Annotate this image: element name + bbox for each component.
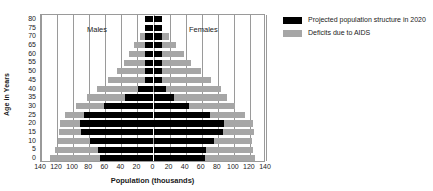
table-row bbox=[41, 24, 264, 33]
bar-projected-female bbox=[154, 103, 189, 109]
plot-area: Males Females bbox=[40, 14, 265, 162]
x-axis-tick-label: 120 bbox=[243, 163, 255, 171]
bar-projected-male bbox=[145, 77, 154, 83]
bar-projected-male bbox=[145, 68, 154, 74]
table-row bbox=[41, 67, 264, 76]
y-axis-tick-label: 55 bbox=[28, 58, 36, 65]
annotation-males: Males bbox=[87, 25, 107, 34]
bar-projected-female bbox=[154, 33, 163, 39]
legend-item: Deficits due to AIDS bbox=[283, 29, 431, 37]
bar-projected-male bbox=[98, 147, 153, 153]
y-axis-tick-label: 60 bbox=[28, 50, 36, 57]
x-axis-tick-label: 140 bbox=[34, 163, 46, 171]
x-axis-tick-label: 100 bbox=[66, 163, 78, 171]
x-axis-tick-label: 0 bbox=[151, 163, 155, 171]
bar-projected-female bbox=[154, 16, 163, 22]
y-axis-tick-label: 0 bbox=[32, 154, 36, 161]
bar-projected-female bbox=[154, 147, 206, 153]
table-row bbox=[41, 59, 264, 68]
population-pyramid-figure: Age in Years 051015202530354045505560657… bbox=[0, 0, 433, 191]
legend-item-label: Deficits due to AIDS bbox=[308, 29, 370, 37]
y-axis-tick-label: 5 bbox=[32, 145, 36, 152]
legend-swatch bbox=[283, 30, 302, 37]
x-axis-tick-label: 100 bbox=[227, 163, 239, 171]
bar-projected-male bbox=[138, 86, 153, 92]
table-row bbox=[41, 154, 264, 163]
y-axis-tick-label: 15 bbox=[28, 128, 36, 135]
bar-projected-female bbox=[154, 94, 175, 100]
table-row bbox=[41, 41, 264, 50]
legend-swatch bbox=[283, 17, 302, 24]
x-axis-tick-labels: 14012010080604020020406080100120140 bbox=[40, 163, 265, 173]
bar-projected-female bbox=[154, 77, 163, 83]
bar-projected-male bbox=[80, 120, 153, 126]
table-row bbox=[41, 102, 264, 111]
bar-projected-male bbox=[145, 25, 154, 31]
bar-projected-female bbox=[154, 25, 163, 31]
legend-item: Projected population structure in 2020 bbox=[283, 16, 431, 24]
bar-projected-male bbox=[145, 33, 154, 39]
bar-projected-female bbox=[154, 155, 205, 161]
x-axis-title: Population (thousands) bbox=[40, 176, 265, 185]
annotation-females: Females bbox=[189, 25, 218, 34]
bar-projected-male bbox=[90, 138, 153, 144]
x-axis-tick-label: 140 bbox=[259, 163, 271, 171]
y-axis-title-label: Age in Years bbox=[4, 72, 11, 115]
x-axis-tick-label: 40 bbox=[116, 163, 124, 171]
y-axis-tick-label: 25 bbox=[28, 111, 36, 118]
y-axis-tick-label: 70 bbox=[28, 32, 36, 39]
table-row bbox=[41, 119, 264, 128]
bar-projected-male bbox=[145, 51, 154, 57]
bar-rows bbox=[41, 15, 264, 161]
bar-projected-female bbox=[154, 129, 224, 135]
bar-projected-male bbox=[145, 42, 154, 48]
bar-projected-male bbox=[125, 94, 154, 100]
y-axis-title: Age in Years bbox=[0, 44, 14, 144]
y-axis-tick-label: 50 bbox=[28, 67, 36, 74]
table-row bbox=[41, 146, 264, 155]
bar-projected-female bbox=[154, 51, 163, 57]
x-axis-tick-label: 60 bbox=[100, 163, 108, 171]
y-axis-tick-label: 45 bbox=[28, 76, 36, 83]
legend: Projected population structure in 2020De… bbox=[283, 16, 431, 42]
bar-projected-male bbox=[84, 112, 153, 118]
y-axis-tick-label: 35 bbox=[28, 93, 36, 100]
bar-projected-male bbox=[104, 103, 153, 109]
y-axis-tick-label: 65 bbox=[28, 41, 36, 48]
y-axis-tick-label: 75 bbox=[28, 24, 36, 31]
bar-projected-male bbox=[145, 60, 154, 66]
table-row bbox=[41, 76, 264, 85]
bar-projected-female bbox=[154, 60, 163, 66]
table-row bbox=[41, 15, 264, 24]
y-axis-tick-label: 20 bbox=[28, 119, 36, 126]
gridline bbox=[266, 15, 267, 161]
x-axis-tick-label: 60 bbox=[197, 163, 205, 171]
bar-projected-male bbox=[81, 129, 153, 135]
x-axis-tick-label: 20 bbox=[165, 163, 173, 171]
y-axis-tick-label: 80 bbox=[28, 15, 36, 22]
bar-projected-female bbox=[154, 42, 163, 48]
bar-projected-female bbox=[154, 86, 166, 92]
y-axis-tick-labels: 05101520253035404550556065707580 bbox=[14, 14, 38, 162]
table-row bbox=[41, 93, 264, 102]
x-axis-tick-label: 20 bbox=[133, 163, 141, 171]
plot-frame: Males Females bbox=[40, 14, 265, 162]
y-axis-tick-label: 10 bbox=[28, 137, 36, 144]
bar-projected-female bbox=[154, 68, 163, 74]
figure-divider bbox=[276, 0, 277, 191]
x-axis-tick-label: 40 bbox=[181, 163, 189, 171]
table-row bbox=[41, 85, 264, 94]
legend-item-label: Projected population structure in 2020 bbox=[308, 16, 426, 24]
y-axis-tick-label: 30 bbox=[28, 102, 36, 109]
bar-projected-male bbox=[100, 155, 153, 161]
table-row bbox=[41, 128, 264, 137]
bar-projected-male bbox=[145, 16, 154, 22]
table-row bbox=[41, 111, 264, 120]
table-row bbox=[41, 32, 264, 41]
x-axis-tick-label: 120 bbox=[50, 163, 62, 171]
bar-projected-female bbox=[154, 120, 225, 126]
bar-projected-female bbox=[154, 138, 214, 144]
x-axis-tick-label: 80 bbox=[84, 163, 92, 171]
y-axis-tick-label: 40 bbox=[28, 85, 36, 92]
table-row bbox=[41, 50, 264, 59]
